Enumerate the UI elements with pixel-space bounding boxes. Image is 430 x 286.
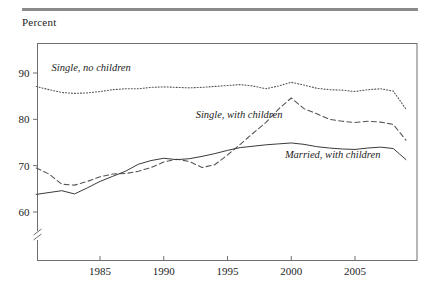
y-axis-tick-label: 90 <box>19 67 31 79</box>
x-axis-tick-label: 2000 <box>280 265 303 277</box>
series-label-2: Single, with children <box>196 109 283 120</box>
y-axis-tick-label: 60 <box>19 206 31 218</box>
line-chart: 6070809019851990199520002005Single, no c… <box>0 0 430 286</box>
x-axis-tick-label: 1995 <box>217 265 240 277</box>
x-axis-tick-label: 1990 <box>153 265 176 277</box>
x-axis-tick-label: 1985 <box>89 265 112 277</box>
y-axis-tick-label: 80 <box>19 113 31 125</box>
x-axis-tick-label: 2005 <box>344 265 367 277</box>
series-label-1: Single, no children <box>52 62 131 73</box>
series-line-1 <box>36 82 406 109</box>
y-axis-tick-label: 70 <box>19 160 31 172</box>
figure-root: Percent 6070809019851990199520002005Sing… <box>0 0 430 286</box>
series-label-3: Married, with children <box>284 149 381 160</box>
